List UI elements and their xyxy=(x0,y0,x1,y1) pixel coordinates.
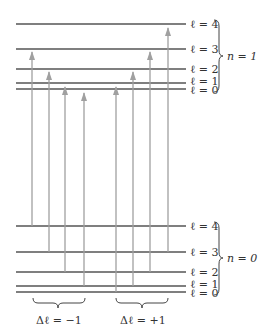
lower-level-labels: ℓ = 4 ℓ = 3 ℓ = 2 ℓ = 1 ℓ = 0 xyxy=(190,220,218,300)
arrowhead-icon xyxy=(130,71,136,80)
arrowhead-icon xyxy=(46,71,52,80)
arrowhead-icon xyxy=(62,86,68,95)
group-brace-plus-icon xyxy=(116,298,168,308)
upper-label-l0: ℓ = 0 xyxy=(190,84,218,97)
delta-l-plus-label: Δℓ = +1 xyxy=(120,314,166,327)
lower-levels xyxy=(16,226,186,292)
arrowhead-icon xyxy=(147,51,153,60)
arrowhead-icon xyxy=(29,51,35,60)
upper-levels xyxy=(16,24,186,89)
arrowhead-icon xyxy=(165,27,171,36)
arrowhead-icon xyxy=(81,92,87,101)
upper-band-label: n = 1 xyxy=(227,50,257,63)
lower-band-label: n = 0 xyxy=(227,252,257,265)
energy-level-diagram: ℓ = 4 ℓ = 3 ℓ = 2 ℓ = 1 ℓ = 0 n = 1 ℓ = … xyxy=(0,0,272,334)
upper-label-l3: ℓ = 3 xyxy=(190,43,218,56)
group-brace-minus-icon xyxy=(33,298,85,308)
arrowhead-icon xyxy=(113,86,119,95)
lower-label-l0: ℓ = 0 xyxy=(190,287,218,300)
upper-level-labels: ℓ = 4 ℓ = 3 ℓ = 2 ℓ = 1 ℓ = 0 xyxy=(190,18,218,97)
delta-l-minus-label: Δℓ = −1 xyxy=(36,314,82,327)
lower-label-l3: ℓ = 3 xyxy=(190,246,218,259)
